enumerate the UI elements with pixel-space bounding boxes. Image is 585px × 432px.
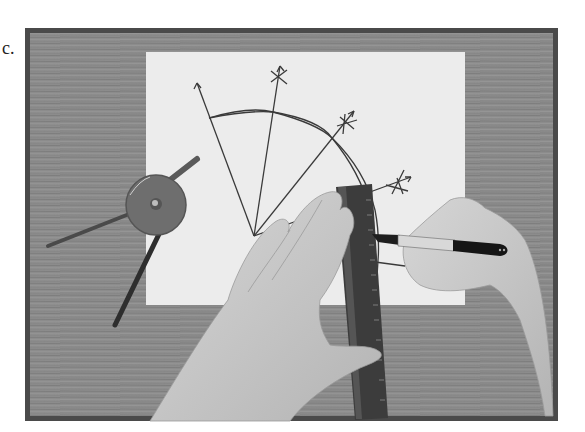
photograph — [0, 0, 585, 432]
